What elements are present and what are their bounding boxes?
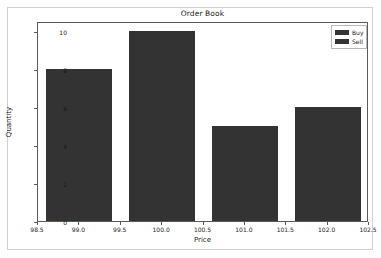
x-tick-mark	[120, 222, 121, 225]
y-tick-label: 2	[63, 180, 67, 187]
x-tick-label: 100.5	[194, 226, 211, 233]
x-tick-mark	[203, 222, 204, 225]
bar	[295, 107, 361, 221]
x-tick-label: 102.5	[359, 226, 376, 233]
y-tick-label: 10	[59, 28, 67, 35]
y-tick-label: 0	[63, 219, 67, 226]
y-tick-label: 6	[63, 104, 67, 111]
x-tick-label: 98.5	[30, 226, 43, 233]
y-tick-mark	[34, 32, 37, 33]
bar	[46, 69, 112, 221]
x-tick-mark	[327, 222, 328, 225]
y-tick-mark	[34, 70, 37, 71]
legend-label: Buy	[352, 29, 363, 36]
x-tick-label: 100.0	[153, 226, 170, 233]
x-tick-mark	[244, 222, 245, 225]
x-tick-label: 101.5	[277, 226, 294, 233]
y-tick-label: 8	[63, 66, 67, 73]
x-tick-mark	[161, 222, 162, 225]
x-tick-mark	[37, 222, 38, 225]
y-tick-mark	[34, 222, 37, 223]
bar	[212, 126, 278, 221]
x-tick-label: 99.0	[72, 226, 85, 233]
bar	[129, 31, 195, 221]
plot-area	[37, 22, 368, 222]
x-tick-mark	[78, 222, 79, 225]
y-tick-label: 4	[63, 142, 67, 149]
legend-item: Sell	[335, 37, 363, 45]
chart-legend: BuySell	[331, 25, 367, 49]
x-tick-label: 99.5	[113, 226, 126, 233]
legend-swatch	[335, 39, 349, 44]
chart-title: Order Book	[37, 9, 368, 18]
x-tick-mark	[368, 222, 369, 225]
y-tick-mark	[34, 108, 37, 109]
bars-layer	[38, 23, 367, 221]
y-axis-label: Quantity	[5, 107, 13, 137]
y-tick-mark	[34, 146, 37, 147]
legend-item: Buy	[335, 29, 363, 37]
x-axis-label: Price	[37, 236, 368, 244]
order-book-chart-figure: Order Book 98.599.099.5100.0100.5101.010…	[0, 0, 381, 258]
y-tick-mark	[34, 184, 37, 185]
x-tick-label: 102.0	[318, 226, 335, 233]
legend-label: Sell	[352, 38, 363, 45]
legend-swatch	[335, 30, 349, 35]
x-tick-label: 101.0	[235, 226, 252, 233]
x-tick-mark	[285, 222, 286, 225]
